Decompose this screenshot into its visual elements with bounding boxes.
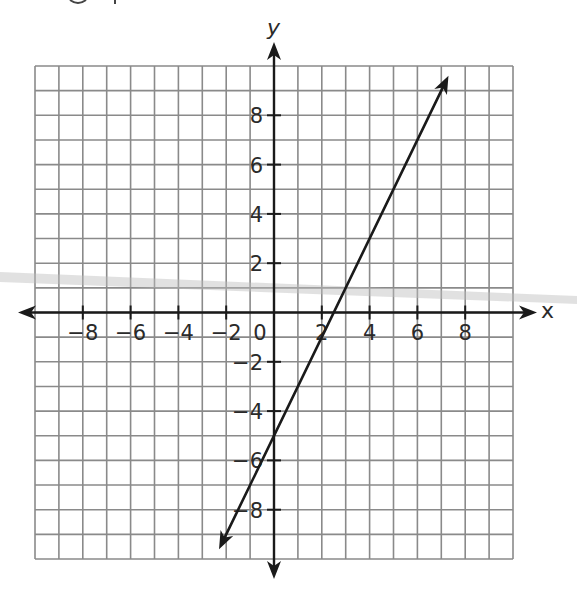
x-tick-label: −4 <box>163 321 194 345</box>
y-tick-label: −2 <box>232 351 263 375</box>
y-tick-label: 6 <box>250 154 263 178</box>
y-tick-label: 4 <box>250 203 263 227</box>
y-axis-label: y <box>266 15 281 40</box>
x-tick-label: 6 <box>411 321 424 345</box>
partial-text-fragment <box>114 0 116 4</box>
x-tick-label: −2 <box>211 321 242 345</box>
x-tick-label: −8 <box>67 321 98 345</box>
origin-label: 0 <box>253 321 266 345</box>
x-tick-label: 2 <box>315 321 328 345</box>
partial-text-fragment <box>70 0 86 3</box>
x-tick-label: 8 <box>459 321 472 345</box>
y-tick-label: 2 <box>250 252 263 276</box>
y-tick-label: −4 <box>232 400 263 424</box>
coordinate-plane: xy−8−6−4−224688642−2−4−6−80 <box>0 0 577 598</box>
scan-artifacts <box>70 0 116 4</box>
axes <box>18 42 537 579</box>
x-tick-label: 4 <box>363 321 376 345</box>
x-axis-label: x <box>541 298 554 323</box>
x-tick-label: −6 <box>115 321 146 345</box>
y-tick-label: 8 <box>250 104 263 128</box>
